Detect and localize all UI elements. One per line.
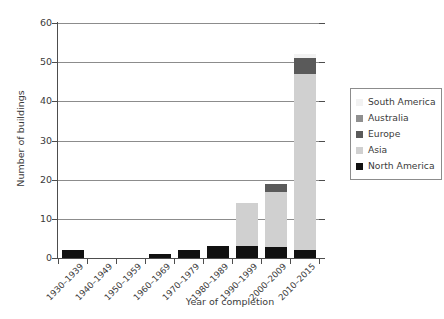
y-axis-tick-right [319,219,325,220]
gridline [58,23,319,24]
bar-segment [265,192,287,247]
legend-label: Europe [368,129,400,138]
y-axis-tick-label: 20 [40,175,52,185]
legend-item: Asia [356,142,437,158]
bar-segment [236,246,258,258]
legend-label: Australia [368,113,409,122]
gridline [58,62,319,63]
legend-swatch-icon [356,163,363,170]
legend-label: South America [368,97,436,106]
x-axis-tick [261,259,262,264]
bar [265,184,287,258]
x-axis-tick [116,259,117,264]
legend-item: South America [356,94,437,110]
bar-segment [207,246,229,258]
bar-segment [62,250,84,258]
bar [62,250,84,258]
legend-swatch-icon [356,115,363,122]
gridline [58,141,319,142]
legend-item: Australia [356,110,437,126]
gridline [58,101,319,102]
y-axis-tick-label: 60 [40,18,52,28]
x-axis-tick [145,259,146,264]
y-axis-tick-label: 50 [40,57,52,67]
bar-segment [265,184,287,192]
bar-segment [294,74,316,250]
legend-swatch-icon [356,99,363,106]
x-axis-tick [174,259,175,264]
y-axis-tick-right [319,101,325,102]
legend-swatch-icon [356,131,363,138]
bar [149,254,171,258]
legend-label: North America [368,161,435,170]
y-axis-tick-right [319,62,325,63]
legend-label: Asia [368,145,387,154]
x-axis-tick [232,259,233,264]
x-axis-tick-label: 1930–1939 [0,262,85,319]
chart-figure: 0102030405060 1930–19391940–19491950–195… [0,0,444,319]
y-axis-title: Number of buildings [15,49,26,229]
y-axis-tick-label: 40 [40,96,52,106]
chart-legend: South AmericaAustraliaEuropeAsiaNorth Am… [350,88,442,180]
gridline [58,180,319,181]
y-axis-tick-label: 10 [40,214,52,224]
bar-segment [149,254,171,258]
legend-item: Europe [356,126,437,142]
y-axis-tick-right [319,180,325,181]
bar [236,203,258,258]
bar-segment [265,247,287,259]
x-axis-tick [58,259,59,264]
y-axis-tick-label: 30 [40,136,52,146]
x-axis-tick [203,259,204,264]
bar [178,250,200,258]
y-axis-line [57,22,58,259]
bar [207,246,229,258]
x-axis-title: Year of completion [150,296,310,307]
bar [294,54,316,258]
bar-segment [236,203,258,246]
bar-segment [294,250,316,258]
x-axis-tick [87,259,88,264]
legend-swatch-icon [356,147,363,154]
y-axis-tick-right [319,141,325,142]
bar-segment [178,250,200,258]
x-axis-tick [319,259,320,264]
x-axis-tick [290,259,291,264]
bar-segment [294,58,316,74]
y-axis-tick-right [319,23,325,24]
y-axis-tick-label: 0 [46,253,52,263]
legend-item: North America [356,158,437,174]
